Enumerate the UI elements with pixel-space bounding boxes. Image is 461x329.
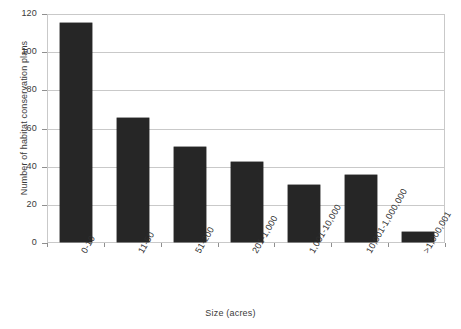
- y-tick-label: 60: [27, 124, 37, 133]
- bar: [60, 23, 92, 242]
- gridline: [48, 14, 444, 15]
- bar: [174, 147, 206, 242]
- x-tick-mark: [274, 243, 275, 247]
- x-tick-mark: [331, 243, 332, 247]
- y-tick-label: 80: [27, 85, 37, 94]
- x-axis-title: Size (acres): [0, 308, 461, 318]
- y-tick-label: 120: [21, 9, 37, 18]
- bar: [231, 162, 263, 242]
- bar: [345, 175, 377, 242]
- bar-chart: Number of habitat conservation plans 020…: [0, 0, 461, 329]
- x-tick-mark: [218, 243, 219, 247]
- y-tick-label: 100: [21, 47, 37, 56]
- x-tick-mark: [388, 243, 389, 247]
- bar: [117, 118, 149, 242]
- y-tick-label: 20: [27, 200, 37, 209]
- gridline: [48, 52, 444, 53]
- y-axis: 020406080100120: [0, 0, 47, 258]
- x-tick-mark: [161, 243, 162, 247]
- y-tick-label: 0: [32, 238, 37, 247]
- gridline: [48, 129, 444, 130]
- x-tick-mark: [104, 243, 105, 247]
- plot-area: [47, 14, 445, 243]
- gridline: [48, 90, 444, 91]
- x-tick-mark: [445, 243, 446, 247]
- x-tick-mark: [47, 243, 48, 247]
- x-axis: 0-1011-5051-200201-1,0001,001-10,00010,0…: [47, 243, 445, 251]
- y-tick-label: 40: [27, 162, 37, 171]
